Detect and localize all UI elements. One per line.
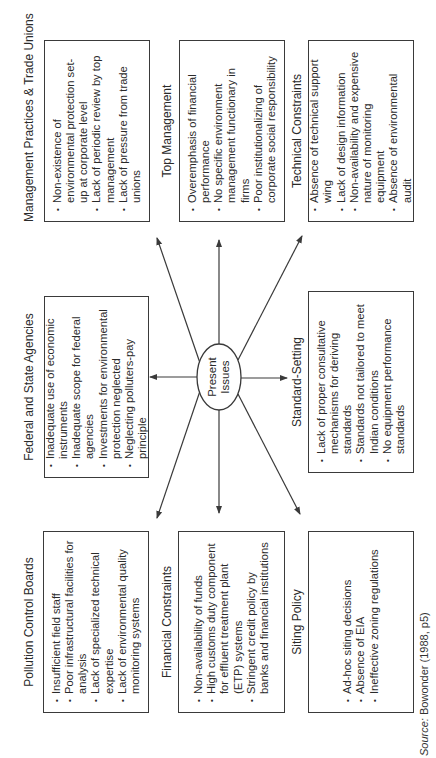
diagram-canvas: Present Issues Management Practices & Tr… — [0, 0, 436, 758]
source-caption: Source: Bowonder (1988, p5) — [418, 612, 430, 756]
arrow-to-pollution — [157, 391, 200, 518]
list-item: Lack of proper consultative mechanisms f… — [315, 300, 355, 462]
list-item: Absence of EIA — [354, 549, 367, 702]
list-item: Ad-hoc siting decisions — [341, 549, 354, 702]
technical-box: Absence of technical support wing Lack o… — [308, 40, 414, 222]
list-item: Inadequate scope for federal agencies — [70, 305, 96, 467]
list-item: Non-availability and expensive nature of… — [348, 49, 388, 211]
list-item: Non-availability of funds — [192, 540, 205, 702]
management-title: Management Practices & Trade Unions — [22, 40, 36, 222]
standard-box: Lack of proper consultative mechanisms f… — [308, 291, 414, 473]
technical-title: Technical Constraints — [290, 40, 304, 222]
list-item: No equipment performance standards — [381, 300, 407, 462]
list-item: No specific environment management funct… — [212, 49, 252, 211]
top-management-title: Top Management — [160, 40, 174, 222]
list-item: Insufficient field staff — [50, 540, 63, 702]
center-label: Present Issues — [206, 344, 232, 410]
list-item: Lack of design information — [335, 49, 348, 211]
federal-title: Federal and State Agencies — [22, 296, 36, 478]
arrow-to-management — [157, 238, 200, 363]
list-item: Inadequate use of economic instruments — [44, 305, 70, 467]
list-item: Absence of environmental audit — [387, 49, 413, 211]
pollution-box: Insufficient field staff Poor infrastruc… — [43, 531, 149, 713]
list-item: Lack of pressure from trade unions — [117, 49, 143, 211]
federal-box: Inadequate use of economic instruments I… — [44, 296, 149, 478]
list-item: Investments for environmental protection… — [97, 305, 123, 467]
pollution-title: Pollution Control Boards — [22, 531, 36, 713]
list-item: Lack of periodic review by top managemen… — [90, 49, 116, 211]
standard-title: Standard-Setting — [290, 291, 304, 473]
list-item: Overemphasis of financial performance — [186, 49, 212, 211]
list-item: Stringent credit policy by banks and fin… — [245, 540, 271, 702]
siting-title: Siting Policy — [290, 531, 304, 713]
management-box: Non-existence of environmental protectio… — [44, 40, 150, 222]
list-item: Lack of environmental quality monitoring… — [116, 540, 142, 702]
list-item: Non-existence of environmental protectio… — [51, 49, 91, 211]
list-item: Poor infrastructural facilities for anal… — [63, 540, 89, 702]
list-item: Standards not tailored to meet Indian co… — [354, 300, 380, 462]
list-item: Ineffective zoning regulations — [368, 549, 381, 702]
list-item: Lack of specialized technical expertise — [89, 540, 115, 702]
list-item: Poor institutionalizing of corporate soc… — [252, 49, 278, 211]
financial-box: Non-availability of funds High customs d… — [178, 531, 285, 713]
siting-box: Ad-hoc siting decisions Absence of EIA I… — [308, 531, 414, 713]
list-item: Absence of technical support wing — [308, 49, 334, 211]
financial-title: Financial Constraints — [160, 531, 174, 713]
list-item: High customs duty component for effluent… — [205, 540, 245, 702]
list-item: Neglecting polluters-pay principle — [123, 305, 149, 467]
top-management-box: Overemphasis of financial performance No… — [179, 40, 285, 222]
